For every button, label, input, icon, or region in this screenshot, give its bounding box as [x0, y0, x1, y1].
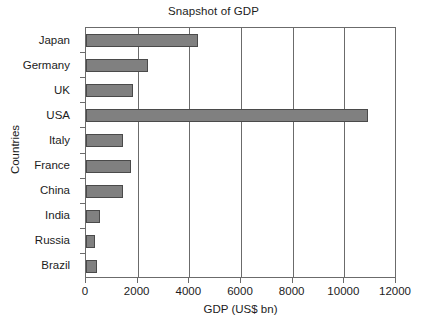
gridline: [189, 28, 190, 277]
bar: [86, 235, 95, 248]
gridline: [293, 28, 294, 277]
bar: [86, 84, 133, 97]
x-axis-tick-label: 2000: [124, 285, 150, 298]
x-axis-tick: [240, 278, 241, 283]
plot-area: [85, 27, 396, 278]
x-axis-tick: [292, 278, 293, 283]
bar: [86, 260, 97, 273]
bar: [86, 59, 148, 72]
x-axis-tick-label: 0: [82, 285, 88, 298]
gridline: [241, 28, 242, 277]
y-axis-tick: [80, 253, 85, 254]
x-axis-title: GDP (US$ bn): [85, 302, 396, 316]
category-label-germany: Germany: [0, 59, 78, 71]
x-axis-tick-label: 6000: [227, 285, 253, 298]
x-axis-tick-label: 10000: [327, 285, 359, 298]
bar: [86, 34, 198, 47]
x-axis-tick: [188, 278, 189, 283]
y-axis-tick: [80, 127, 85, 128]
x-axis-tick-label: 8000: [279, 285, 305, 298]
gdp-bar-chart: Snapshot of GDP JapanGermanyUKUSAItalyFr…: [0, 0, 427, 330]
y-axis-tick: [80, 203, 85, 204]
chart-title: Snapshot of GDP: [0, 4, 427, 18]
y-axis-tick: [80, 153, 85, 154]
gridline: [344, 28, 345, 277]
bar: [86, 160, 131, 173]
bar: [86, 109, 368, 122]
category-label-brazil: Brazil: [0, 259, 78, 271]
x-axis-tick-label: 12000: [379, 285, 411, 298]
y-axis-tick: [80, 77, 85, 78]
category-label-russia: Russia: [0, 234, 78, 246]
bar: [86, 134, 123, 147]
x-axis-tick-label: 4000: [176, 285, 202, 298]
y-axis-title: Countries: [9, 85, 22, 215]
y-axis-tick: [80, 52, 85, 53]
x-axis-tick: [395, 278, 396, 283]
bar: [86, 210, 100, 223]
x-axis-tick: [85, 278, 86, 283]
x-axis-tick: [343, 278, 344, 283]
category-label-japan: Japan: [0, 34, 78, 46]
bar: [86, 185, 123, 198]
y-axis-tick: [80, 178, 85, 179]
x-axis-tick: [137, 278, 138, 283]
y-axis-tick: [80, 228, 85, 229]
y-axis-tick: [80, 102, 85, 103]
